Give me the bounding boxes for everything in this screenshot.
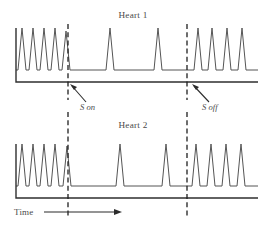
stimulus-off-annotation: S off — [192, 84, 219, 112]
stimulus-off-arrowhead — [192, 84, 199, 90]
stimulus-on-annotation: S on — [70, 84, 95, 112]
trace2-waveform — [16, 144, 258, 186]
time-axis-group: Time — [14, 207, 122, 217]
time-axis-arrowhead — [114, 209, 122, 215]
trace-heart-1 — [16, 28, 258, 82]
trace1-title: Heart 1 — [118, 10, 147, 20]
trace2-title: Heart 2 — [118, 120, 147, 130]
stimulus-on-label: S on — [80, 102, 95, 112]
heart-rate-figure: Heart 1 S on S off Heart 2 — [0, 0, 266, 228]
trace1-waveform — [16, 28, 258, 70]
figure-canvas: Heart 1 S on S off Heart 2 — [0, 0, 266, 228]
trace-heart-2 — [16, 144, 258, 198]
stimulus-on-arrowhead — [70, 84, 77, 90]
stimulus-off-label: S off — [202, 102, 219, 112]
time-axis-label: Time — [14, 207, 33, 217]
